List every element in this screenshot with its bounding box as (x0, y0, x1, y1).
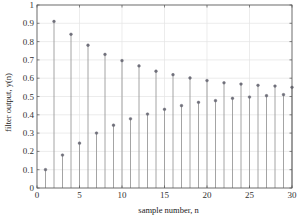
stem-marker (112, 124, 115, 127)
stem-marker (146, 113, 149, 116)
stem-marker (189, 77, 192, 80)
y-tick-label: 0.9 (23, 18, 35, 28)
x-tick-label: 15 (160, 190, 170, 200)
stem-marker (282, 93, 285, 96)
data-stems (44, 20, 293, 188)
stem-marker (248, 96, 251, 99)
stem-marker (104, 53, 107, 56)
y-tick-label: 0 (30, 183, 35, 193)
x-tick-label: 5 (77, 190, 82, 200)
y-axis-label: filter output, y(n) (3, 73, 13, 132)
stem-marker (121, 59, 124, 62)
stem-marker (53, 20, 56, 23)
x-axis-label: sample number, n (138, 205, 199, 215)
stem-marker (95, 132, 98, 135)
stem-marker (214, 99, 217, 102)
stem-marker (180, 104, 183, 107)
stem-chart: 051015202530 00.10.20.30.40.50.60.70.80.… (0, 0, 297, 219)
stem-marker (61, 154, 64, 157)
stem-marker (257, 84, 260, 87)
stem-marker (78, 142, 81, 145)
stem-marker (265, 94, 268, 97)
x-tick-label: 0 (35, 190, 40, 200)
y-tick-label: 0.1 (23, 165, 34, 175)
stem-marker (223, 81, 226, 84)
y-tick-label: 0.4 (23, 110, 35, 120)
stem-marker (231, 97, 234, 100)
stem-marker (87, 44, 90, 47)
x-tick-label: 10 (118, 190, 128, 200)
stem-marker (163, 108, 166, 111)
stem-marker (172, 73, 175, 76)
stem-marker (197, 101, 200, 104)
x-tick-label: 30 (288, 190, 298, 200)
x-tick-label: 25 (245, 190, 255, 200)
stem-marker (206, 79, 209, 82)
y-tick-label: 0.5 (23, 92, 35, 102)
y-tick-label: 0.6 (23, 73, 35, 83)
stem-marker (44, 168, 47, 171)
y-tick-label: 1 (30, 0, 35, 10)
y-tick-label: 0.7 (23, 55, 35, 65)
stem-marker (274, 85, 277, 88)
y-tick-label: 0.3 (23, 128, 35, 138)
stem-marker (138, 65, 141, 68)
y-tick-label: 0.8 (23, 37, 35, 47)
x-tick-label: 20 (203, 190, 213, 200)
stem-marker (240, 83, 243, 86)
stem-marker (155, 70, 158, 73)
stem-marker (129, 117, 132, 120)
y-tick-label: 0.2 (23, 146, 34, 156)
stem-marker (70, 33, 73, 36)
